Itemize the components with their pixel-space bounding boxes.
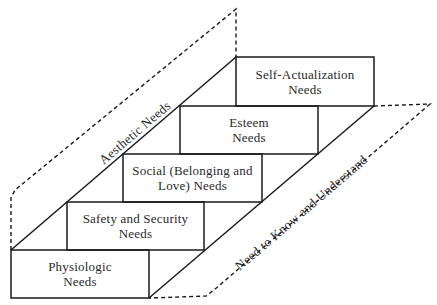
step-social-line2: Love) Needs (132, 178, 252, 193)
step-safety-line2: Needs (83, 226, 189, 241)
step-physiologic: PhysiologicNeeds (11, 250, 149, 298)
step-social-line1: Social (Belonging and (132, 163, 252, 178)
step-social: Social (Belonging andLove) Needs (123, 154, 262, 202)
step-self-actualization: Self-ActualizationNeeds (236, 57, 374, 106)
step-safety: Safety and SecurityNeeds (67, 202, 204, 250)
step-esteem-line1: Esteem (229, 115, 268, 130)
step-self-actualization-line2: Needs (256, 82, 355, 97)
step-safety-line1: Safety and Security (83, 211, 189, 226)
step-physiologic-line1: Physiologic (48, 259, 112, 274)
step-esteem: EsteemNeeds (180, 106, 318, 154)
step-esteem-line2: Needs (229, 130, 268, 145)
step-physiologic-line2: Needs (48, 274, 112, 289)
step-self-actualization-line1: Self-Actualization (256, 67, 355, 82)
